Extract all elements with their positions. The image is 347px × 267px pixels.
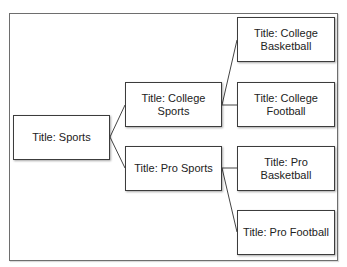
node-label: Title: College Sports xyxy=(142,92,206,118)
node-pro-sports[interactable]: Title: Pro Sports xyxy=(125,146,222,191)
node-college-sports[interactable]: Title: College Sports xyxy=(125,82,222,127)
node-label: Title: College Football xyxy=(254,92,318,118)
node-label: Title: Sports xyxy=(32,131,90,144)
node-label: Title: College Basketball xyxy=(254,27,318,53)
node-college-football[interactable]: Title: College Football xyxy=(237,82,335,127)
node-pro-football[interactable]: Title: Pro Football xyxy=(237,210,335,255)
node-label: Title: Pro Basketball xyxy=(240,156,332,182)
link-sports-pro xyxy=(110,137,125,168)
link-pro-football xyxy=(222,168,237,232)
link-sports-college xyxy=(110,105,125,137)
node-sports[interactable]: Title: Sports xyxy=(13,115,110,160)
node-label: Title: Pro Sports xyxy=(134,162,212,175)
link-college-basketball xyxy=(222,40,237,105)
node-pro-basketball[interactable]: Title: Pro Basketball xyxy=(237,146,335,191)
node-college-basketball[interactable]: Title: College Basketball xyxy=(237,17,335,62)
node-label: Title: Pro Football xyxy=(243,226,329,239)
